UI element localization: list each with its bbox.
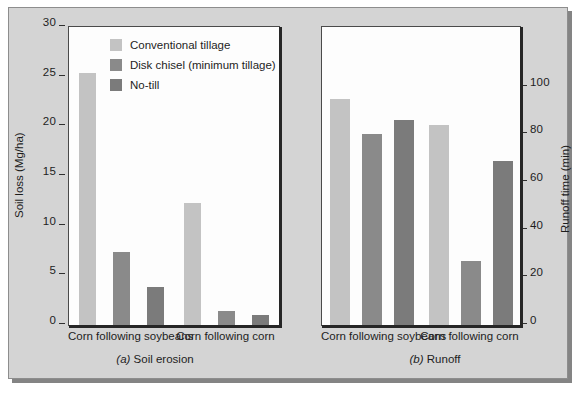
- legend-item-conventional: Conventional tillage: [110, 36, 285, 54]
- y-tick-label: 15: [43, 166, 56, 177]
- legend-item-disk-chisel: Disk chisel (minimum tillage): [110, 56, 285, 74]
- x-axis-labels-a: Corn following soybeansCorn following co…: [9, 330, 301, 346]
- bar-a-g2-1: [184, 203, 201, 325]
- caption-a-text: Soil erosion: [134, 353, 194, 365]
- y-tick-line: [59, 124, 65, 125]
- x-axis-label-b-2: Corn following corn: [420, 330, 519, 342]
- y-tick-label: 0: [530, 315, 537, 326]
- chart-panel-a: 051015202530 Soil loss (Mg/ha) Conventio…: [9, 8, 301, 378]
- legend-swatch-disk-chisel: [110, 59, 122, 71]
- y-tick-line: [521, 85, 527, 86]
- caption-b-text: Runoff: [427, 353, 461, 365]
- bar-a-g1-2: [113, 252, 130, 326]
- y-tick-line: [59, 323, 65, 324]
- plot-area-b: [321, 26, 521, 326]
- y-tick-label: 25: [43, 67, 56, 78]
- caption-a-prefix: (a): [116, 353, 130, 365]
- bar-b-g1-3: [394, 120, 414, 325]
- bar-a-g2-2: [218, 311, 235, 325]
- bar-a-g1-3: [147, 287, 164, 325]
- bar-a-g1-1: [79, 73, 96, 325]
- y-axis-title-a: Soil loss (Mg/ha): [13, 132, 25, 218]
- y-tick-label: 20: [43, 116, 56, 127]
- y-tick-label: 0: [49, 315, 56, 326]
- x-axis-label-a-2: Corn following corn: [173, 330, 278, 342]
- y-tick-label: 20: [530, 267, 543, 278]
- y-tick-line: [521, 275, 527, 276]
- y-tick-line: [59, 25, 65, 26]
- y-tick-line: [521, 180, 527, 181]
- legend-item-no-till: No-till: [110, 76, 285, 94]
- legend-swatch-conventional: [110, 39, 122, 51]
- y-tick-label: 10: [43, 216, 56, 227]
- caption-b-prefix: (b): [410, 353, 424, 365]
- bar-b-g2-3: [493, 161, 513, 325]
- legend-label-disk-chisel: Disk chisel (minimum tillage): [130, 59, 276, 71]
- y-tick-line: [59, 174, 65, 175]
- figure-panel: 051015202530 Soil loss (Mg/ha) Conventio…: [8, 7, 568, 379]
- bar-a-g2-3: [252, 315, 269, 325]
- y-tick-label: 5: [49, 265, 56, 276]
- legend-label-no-till: No-till: [130, 79, 159, 91]
- y-tick-label: 30: [43, 17, 56, 28]
- bar-b-g1-1: [330, 99, 350, 325]
- legend: Conventional tillage Disk chisel (minimu…: [110, 36, 285, 96]
- bar-b-g2-1: [429, 125, 449, 325]
- y-tick-label: 80: [530, 124, 543, 135]
- y-tick-line: [521, 323, 527, 324]
- y-tick-label: 40: [530, 220, 543, 231]
- y-axis-title-b: Runoff time (min): [559, 145, 571, 233]
- y-tick-label: 100: [530, 77, 550, 88]
- caption-b: (b) Runoff: [301, 353, 569, 365]
- caption-a: (a) Soil erosion: [9, 353, 301, 365]
- y-axis-b: 020406080100: [521, 26, 580, 326]
- x-axis-labels-b: Corn following soybeansCorn following co…: [301, 330, 569, 346]
- y-tick-line: [59, 75, 65, 76]
- x-axis-label-a-1: Corn following soybeans: [68, 330, 173, 342]
- bar-b-g1-2: [362, 134, 382, 325]
- legend-swatch-no-till: [110, 79, 122, 91]
- legend-label-conventional: Conventional tillage: [130, 39, 230, 51]
- y-tick-label: 60: [530, 172, 543, 183]
- bar-b-g2-2: [461, 261, 481, 325]
- x-axis-label-b-1: Corn following soybeans: [321, 330, 420, 342]
- y-tick-line: [59, 224, 65, 225]
- y-tick-line: [521, 132, 527, 133]
- y-tick-line: [59, 273, 65, 274]
- chart-panel-b: 020406080100 Runoff time (min) Corn foll…: [301, 8, 569, 378]
- y-tick-line: [521, 228, 527, 229]
